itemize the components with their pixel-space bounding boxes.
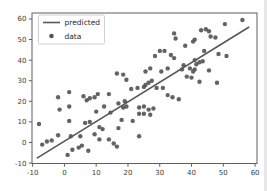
data-point <box>40 142 44 146</box>
data-point <box>119 118 123 122</box>
data-point <box>154 86 158 90</box>
data-point <box>223 22 227 26</box>
y-tick-label: -10 <box>15 160 26 168</box>
x-tick-label: 60 <box>251 169 260 177</box>
data-point <box>78 134 82 138</box>
scatter-figure: -100102030405060-100102030405060predicte… <box>0 0 267 191</box>
x-tick-label: 50 <box>219 169 228 177</box>
y-tick-label: 60 <box>18 15 27 23</box>
data-point <box>57 107 61 111</box>
x-tick-label: 10 <box>92 169 101 177</box>
data-point <box>56 95 60 99</box>
data-point <box>172 31 176 35</box>
screenshot-edge-artifact <box>264 0 267 191</box>
legend: predicteddata <box>39 15 105 44</box>
data-point <box>193 37 197 41</box>
data-point <box>112 141 116 145</box>
y-tick-label: 20 <box>18 98 27 106</box>
x-tick-label: 30 <box>155 169 164 177</box>
data-point <box>70 148 74 152</box>
data-point <box>124 104 128 108</box>
y-tick-label: 40 <box>18 57 27 65</box>
data-point <box>153 54 157 58</box>
data-point <box>146 107 150 111</box>
data-point <box>115 71 119 75</box>
data-point <box>123 99 127 103</box>
data-point <box>224 54 228 58</box>
x-tick-label: 0 <box>62 169 66 177</box>
data-point <box>81 94 85 98</box>
data-point <box>162 49 166 53</box>
data-point <box>213 35 217 39</box>
data-point <box>166 93 170 97</box>
legend-label: data <box>65 32 82 41</box>
data-point <box>172 56 176 60</box>
data-point <box>142 104 146 108</box>
data-point <box>240 18 244 22</box>
data-point <box>201 59 205 63</box>
data-point <box>215 81 219 85</box>
data-point <box>189 75 193 79</box>
scatter-chart-canvas: -100102030405060-100102030405060predicte… <box>0 0 267 191</box>
data-point <box>173 36 177 40</box>
data-point <box>193 58 197 62</box>
data-point <box>208 34 212 38</box>
data-point <box>148 113 152 117</box>
data-point <box>202 49 206 53</box>
data-point <box>185 74 189 78</box>
data-point <box>148 66 152 70</box>
data-point <box>65 153 69 157</box>
data-point <box>56 133 60 137</box>
data-point <box>143 69 147 73</box>
data-point <box>92 95 96 99</box>
data-point <box>67 119 71 123</box>
data-point <box>67 104 71 108</box>
data-point <box>131 119 135 123</box>
data-point <box>88 96 92 100</box>
data-point <box>107 92 111 96</box>
data-point <box>100 127 104 131</box>
data-point <box>50 138 54 142</box>
x-tick-label: 40 <box>187 169 196 177</box>
data-point <box>94 109 98 113</box>
data-point <box>142 112 146 116</box>
data-point <box>180 67 184 71</box>
data-point <box>108 110 112 114</box>
data-point <box>159 69 163 73</box>
data-point <box>37 122 41 126</box>
data-point <box>137 134 141 138</box>
data-point <box>207 68 211 72</box>
data-point <box>116 126 120 130</box>
x-tick-label: 20 <box>124 169 133 177</box>
data-point <box>207 29 211 33</box>
data-point <box>102 104 106 108</box>
data-point <box>158 49 162 53</box>
data-point <box>92 132 96 136</box>
data-point <box>129 87 133 91</box>
data-point <box>151 106 155 110</box>
data-point <box>115 144 119 148</box>
data-point <box>88 120 92 124</box>
legend-label: predicted <box>65 18 101 27</box>
data-point <box>107 137 111 141</box>
data-point <box>137 112 141 116</box>
data-point <box>45 139 49 143</box>
data-point <box>166 66 170 70</box>
data-point <box>69 134 73 138</box>
data-point <box>143 83 147 87</box>
data-point <box>161 86 165 90</box>
data-point <box>177 97 181 101</box>
data-point <box>83 121 87 125</box>
legend-dot-swatch <box>49 34 54 39</box>
data-point <box>199 28 203 32</box>
data-point <box>121 72 125 76</box>
data-point <box>97 137 101 141</box>
data-point <box>170 95 174 99</box>
data-point <box>67 90 71 94</box>
y-tick-label: 0 <box>22 139 26 147</box>
data-point <box>181 63 185 67</box>
data-point <box>191 69 195 73</box>
data-point <box>137 105 141 109</box>
data-point <box>169 53 173 57</box>
y-tick-label: 50 <box>18 36 27 44</box>
